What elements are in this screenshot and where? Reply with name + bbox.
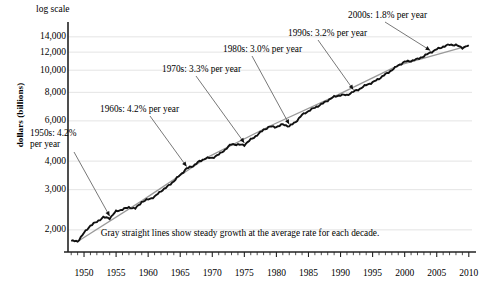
chart-caption: Gray straight lines show steady growth a… bbox=[70, 228, 410, 238]
axis-lines bbox=[64, 22, 476, 252]
annotation-1980s: 1980s: 3.0% per year bbox=[223, 44, 302, 55]
gridlines bbox=[68, 37, 472, 230]
annotation-1970s: 1970s: 3.3% per year bbox=[162, 64, 241, 75]
trend-line-segments bbox=[78, 46, 469, 242]
x-axis-minor-ticks bbox=[71, 252, 469, 257]
annotation-1950s: 1950s: 4.2% per year bbox=[30, 128, 77, 150]
gdp-series-line bbox=[71, 44, 469, 241]
annotation-1950s-line2: per year bbox=[30, 139, 77, 150]
annotation-1960s: 1960s: 4.2% per year bbox=[100, 104, 179, 115]
chart-figure: dollars (billions) log scale 14,00012,00… bbox=[0, 0, 495, 288]
annotation-2000s: 2000s: 1.8% per year bbox=[348, 10, 427, 21]
annotation-1950s-line1: 1950s: 4.2% bbox=[30, 128, 77, 139]
annotation-1990s: 1990s: 3.2% per year bbox=[288, 28, 367, 39]
